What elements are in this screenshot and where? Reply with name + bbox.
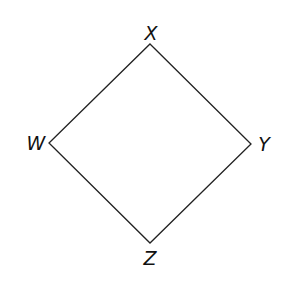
vertex-label-x: X xyxy=(143,22,158,44)
vertex-label-z: Z xyxy=(142,247,157,269)
vertex-label-w: W xyxy=(27,132,47,154)
vertex-label-y: Y xyxy=(258,133,271,155)
rhombus-diagram: X Y Z W xyxy=(0,0,284,287)
